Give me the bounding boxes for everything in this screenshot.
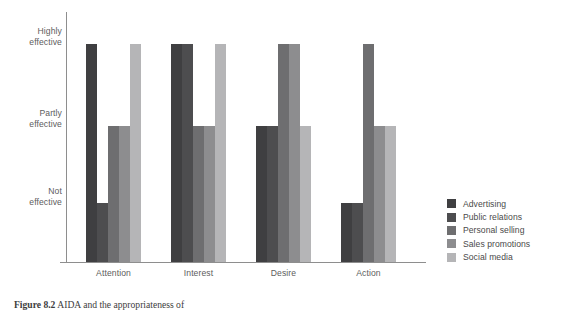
- bar-group: [341, 12, 396, 262]
- figure-caption: Figure 8.2 AIDA and the appropriateness …: [14, 299, 184, 310]
- y-tick-line1: Not: [4, 186, 62, 197]
- legend-swatch-icon: [447, 239, 456, 248]
- figure-grouped-bar-chart: Highly effective Partly effective Not ef…: [0, 0, 579, 311]
- y-axis-labels: Highly effective Partly effective Not ef…: [0, 0, 62, 275]
- figure-caption-text: AIDA and the appropriateness of: [57, 299, 184, 310]
- chart-legend: AdvertisingPublic relationsPersonal sell…: [447, 197, 577, 264]
- legend-swatch-icon: [447, 253, 456, 262]
- y-axis-tick-not-effective: Not effective: [4, 186, 62, 207]
- bar: [130, 44, 141, 262]
- bar: [86, 44, 97, 262]
- bar: [182, 44, 193, 262]
- bar: [341, 203, 352, 262]
- x-axis-tick-desire: Desire: [244, 268, 324, 278]
- bar: [374, 126, 385, 262]
- legend-item: Advertising: [447, 197, 577, 210]
- y-tick-line2: effective: [4, 197, 62, 208]
- bar: [108, 126, 119, 262]
- bar-group: [256, 12, 311, 262]
- legend-label: Personal selling: [463, 225, 524, 235]
- legend-item: Social media: [447, 251, 577, 264]
- legend-swatch-icon: [447, 213, 456, 222]
- bar-group: [171, 12, 226, 262]
- legend-label: Social media: [463, 252, 513, 262]
- bar: [278, 44, 289, 262]
- bar: [97, 203, 108, 262]
- x-axis-tick-action: Action: [329, 268, 409, 278]
- x-axis-tick-attention: Attention: [74, 268, 154, 278]
- y-tick-line2: effective: [4, 119, 62, 130]
- y-axis-tick-partly-effective: Partly effective: [4, 108, 62, 129]
- bar: [193, 126, 204, 262]
- bar: [289, 44, 300, 262]
- bar: [363, 44, 374, 262]
- bar: [256, 126, 267, 262]
- legend-swatch-icon: [447, 226, 456, 235]
- bar: [119, 126, 130, 262]
- y-tick-line1: Partly: [4, 108, 62, 119]
- figure-caption-number: Figure 8.2: [14, 299, 55, 310]
- legend-label: Public relations: [463, 212, 522, 222]
- bar: [300, 126, 311, 262]
- plot-area: [66, 12, 426, 262]
- x-axis-tick-interest: Interest: [159, 268, 239, 278]
- legend-label: Sales promotions: [463, 239, 530, 249]
- y-tick-line2: effective: [4, 37, 62, 48]
- bar: [267, 126, 278, 262]
- x-axis-line: [60, 262, 426, 263]
- legend-swatch-icon: [447, 199, 456, 208]
- bar: [171, 44, 182, 262]
- y-axis-tick-highly-effective: Highly effective: [4, 26, 62, 47]
- legend-item: Public relations: [447, 210, 577, 223]
- bar: [215, 44, 226, 262]
- bar-group: [86, 12, 141, 262]
- legend-label: Advertising: [463, 199, 506, 209]
- bar: [352, 203, 363, 262]
- bar: [385, 126, 396, 262]
- y-tick-line1: Highly: [4, 26, 62, 37]
- legend-item: Personal selling: [447, 224, 577, 237]
- legend-item: Sales promotions: [447, 237, 577, 250]
- bar: [204, 126, 215, 262]
